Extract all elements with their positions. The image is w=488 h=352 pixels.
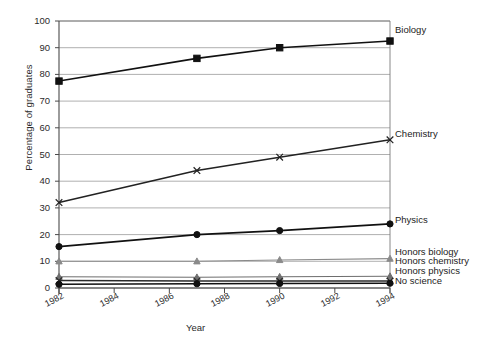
y-axis-tick: 60 bbox=[24, 123, 50, 133]
series-label-biology: Biology bbox=[395, 25, 426, 35]
x-axis-label: Year bbox=[186, 322, 205, 333]
figure-container: Percentage of graduates Year 01020304050… bbox=[0, 0, 488, 352]
y-axis-tick: 0 bbox=[24, 283, 50, 293]
series-label-no-science: No science bbox=[395, 276, 442, 286]
y-axis-tick: 50 bbox=[24, 150, 50, 160]
y-axis-tick: 80 bbox=[24, 69, 50, 79]
y-axis-tick: 30 bbox=[24, 203, 50, 213]
y-axis-tick: 10 bbox=[24, 256, 50, 266]
y-axis-tick: 20 bbox=[24, 230, 50, 240]
y-axis-tick: 90 bbox=[24, 43, 50, 53]
y-axis-tick: 40 bbox=[24, 176, 50, 186]
line-chart-plot bbox=[0, 0, 488, 352]
series-label-chemistry: Chemistry bbox=[395, 129, 438, 139]
y-axis-tick: 70 bbox=[24, 96, 50, 106]
series-label-physics: Physics bbox=[395, 215, 428, 225]
y-axis-tick: 100 bbox=[24, 16, 50, 26]
